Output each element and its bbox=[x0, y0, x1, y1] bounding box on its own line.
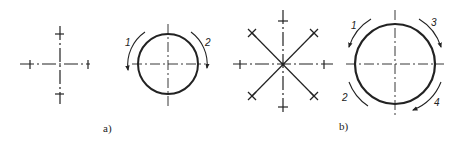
panel-a-cross bbox=[20, 26, 90, 104]
arc-label-2: 2 bbox=[204, 37, 211, 48]
arc-label-1: 1 bbox=[351, 20, 357, 31]
caption-b: b) bbox=[339, 120, 349, 133]
arc-label-2: 2 bbox=[341, 92, 348, 103]
arc-label-4: 4 bbox=[434, 97, 440, 108]
panel-b-circle: 1 3 2 4 bbox=[341, 10, 444, 116]
panel-a-circle: 1 2 bbox=[125, 24, 211, 108]
panel-b-star bbox=[233, 10, 333, 114]
rotation-arrow-2 bbox=[349, 82, 368, 106]
diagram-canvas: 1 2 a) 1 3 2 4 b) bbox=[0, 0, 456, 143]
caption-a: a) bbox=[103, 122, 112, 135]
arc-label-3: 3 bbox=[431, 17, 437, 28]
arc-label-1: 1 bbox=[125, 37, 131, 48]
